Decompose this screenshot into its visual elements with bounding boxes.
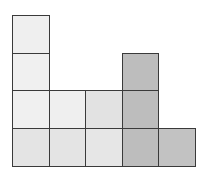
block-cell [49, 90, 87, 129]
block-cell [122, 53, 160, 92]
block-cell [12, 90, 50, 129]
block-cell [12, 53, 50, 92]
block-cell [49, 128, 87, 167]
block-cell [158, 128, 196, 167]
block-stack-diagram [0, 0, 208, 177]
block-cell [12, 128, 50, 167]
block-cell [85, 90, 123, 129]
block-cell [122, 90, 160, 129]
block-cell [12, 15, 50, 54]
block-cell [85, 128, 123, 167]
block-cell [122, 128, 160, 167]
